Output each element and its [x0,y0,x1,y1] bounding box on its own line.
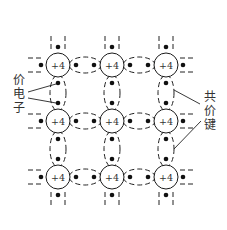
label-char: 价 [13,73,25,87]
covalent-bond [158,131,174,167]
atom: +4 [46,109,70,133]
atom: +4 [46,165,70,189]
label-char: 共 [204,90,216,104]
atom: +4 [46,53,70,77]
electron [56,157,61,162]
atom-charge: +4 [105,172,119,183]
electron [92,119,97,124]
atom-charge: +4 [51,172,65,183]
electron [56,101,61,106]
electron [164,81,169,86]
electron [74,175,79,180]
electron [74,63,79,68]
atom-charge: +4 [159,172,173,183]
electron [181,119,186,124]
electron [164,45,169,50]
electron [164,137,169,142]
atom-charge: +4 [51,60,65,71]
electron [110,81,115,86]
electron [128,175,133,180]
atom-charge: +4 [51,116,65,127]
electron [110,193,115,198]
electron [74,119,79,124]
electron [128,63,133,68]
valence-electron-leader [28,84,56,92]
electron [164,193,169,198]
covalent-bond-leader [174,121,201,149]
electron [146,63,151,68]
covalent-bond [158,75,174,111]
label-char: 子 [13,101,25,115]
label-char: 价 [204,104,216,118]
covalent-bond [50,75,66,111]
atom: +4 [154,53,178,77]
electron [56,137,61,142]
atom: +4 [100,53,124,77]
valence-electron-leader [28,98,56,103]
electron [56,81,61,86]
electron [146,175,151,180]
electron [92,63,97,68]
electron [181,63,186,68]
electron [56,193,61,198]
electron [146,119,151,124]
electron [39,119,44,124]
silicon-crystal-diagram: +4 +4 +4 +4 +4 +4 +4 +4 +4 [0,0,227,230]
atom-charge: +4 [159,116,173,127]
atom-charge: +4 [105,60,119,71]
covalent-bond-label: 共 价 键 [204,90,216,132]
atom: +4 [100,165,124,189]
electron [39,175,44,180]
electron [164,101,169,106]
atom: +4 [154,109,178,133]
electron [110,137,115,142]
electron [164,157,169,162]
electron [181,175,186,180]
electron [110,45,115,50]
electron [39,63,44,68]
covalent-bond [104,75,120,111]
atom: +4 [154,165,178,189]
electron [128,119,133,124]
covalent-bond-leader [174,90,200,104]
covalent-bond [50,131,66,167]
valence-electron-label: 价 电 子 [13,73,25,115]
covalent-bond [104,131,120,167]
electron [110,101,115,106]
atom-charge: +4 [105,116,119,127]
electron [92,175,97,180]
label-char: 电 [13,87,25,101]
atoms: +4 +4 +4 +4 +4 +4 +4 +4 +4 [46,53,178,189]
electron [56,45,61,50]
label-char: 键 [204,118,216,132]
electron [110,157,115,162]
atom-charge: +4 [159,60,173,71]
atom: +4 [100,109,124,133]
